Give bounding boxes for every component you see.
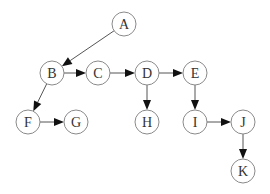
edge-f-g (40, 118, 64, 126)
node-label: A (119, 17, 130, 32)
node-label: D (142, 66, 152, 81)
node-label: G (71, 115, 81, 130)
node-d: D (135, 61, 159, 85)
node-label: H (142, 115, 152, 130)
arrowhead-icon (173, 69, 183, 77)
node-label: B (47, 66, 56, 81)
node-label: I (193, 115, 198, 130)
edge-a-b (62, 31, 114, 66)
node-label: C (93, 66, 102, 81)
node-e: E (183, 61, 207, 85)
arrowhead-icon (33, 100, 41, 111)
arrowhead-icon (191, 100, 199, 110)
node-j: J (231, 110, 255, 134)
edge-c-d (110, 69, 135, 77)
node-h: H (135, 110, 159, 134)
arrowhead-icon (239, 149, 247, 159)
nodes-layer: ABCDEFGHIJK (16, 12, 255, 183)
edge-b-c (64, 69, 86, 77)
graph-canvas: ABCDEFGHIJK (0, 0, 270, 194)
arrowhead-icon (125, 69, 135, 77)
edge-d-h (143, 85, 151, 110)
arrowhead-icon (54, 118, 64, 126)
arrowhead-icon (76, 69, 86, 77)
node-b: B (40, 61, 64, 85)
node-label: J (240, 115, 246, 130)
node-g: G (64, 110, 88, 134)
node-i: I (183, 110, 207, 134)
node-c: C (86, 61, 110, 85)
edge-i-j (207, 118, 231, 126)
arrowhead-icon (143, 100, 151, 110)
edge-line (70, 31, 114, 61)
node-label: F (24, 115, 32, 130)
edges-layer (33, 31, 247, 159)
edge-line (38, 84, 47, 102)
node-f: F (16, 110, 40, 134)
edge-j-k (239, 134, 247, 159)
node-a: A (112, 12, 136, 36)
edge-e-i (191, 85, 199, 110)
node-label: K (238, 164, 248, 179)
node-k: K (231, 159, 255, 183)
arrowhead-icon (221, 118, 231, 126)
edge-d-e (159, 69, 183, 77)
arrowhead-icon (62, 57, 73, 66)
edge-b-f (33, 84, 46, 111)
node-label: E (191, 66, 200, 81)
